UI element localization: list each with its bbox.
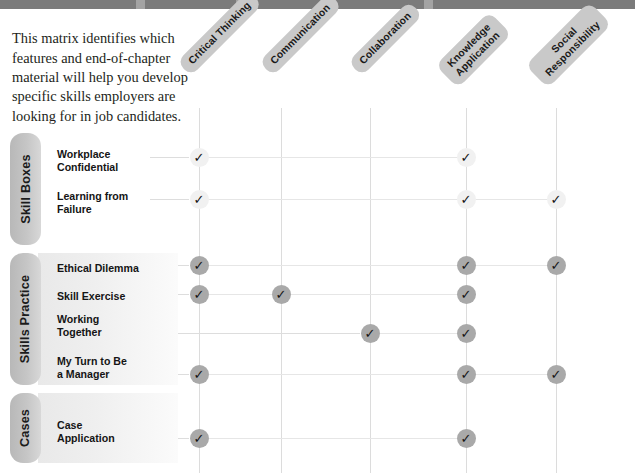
top-bar-text-fragment bbox=[136, 0, 145, 9]
category-tab-skill-boxes[interactable]: Skill Boxes bbox=[10, 133, 41, 245]
check-icon: ✓ bbox=[551, 193, 562, 206]
check-icon: ✓ bbox=[461, 259, 472, 272]
row-label-case-application: Case Application bbox=[57, 419, 115, 446]
check-mark-skill-exercise-critical-thinking[interactable]: ✓ bbox=[190, 285, 209, 304]
check-mark-skill-exercise-knowledge-application[interactable]: ✓ bbox=[457, 285, 476, 304]
check-icon: ✓ bbox=[461, 288, 472, 301]
row-rule-workplace-confidential bbox=[199, 157, 466, 158]
check-mark-skill-exercise-communication[interactable]: ✓ bbox=[272, 285, 291, 304]
check-icon: ✓ bbox=[194, 259, 205, 272]
row-label-working-together: Working Together bbox=[57, 313, 102, 340]
check-mark-case-application-knowledge-application[interactable]: ✓ bbox=[457, 429, 476, 448]
column-header-knowledge-application: Knowledge Application bbox=[435, 12, 511, 88]
check-icon: ✓ bbox=[194, 288, 205, 301]
row-rule-skill-exercise bbox=[199, 294, 466, 295]
leader-line-working-together bbox=[150, 333, 360, 334]
check-mark-ethical-dilemma-critical-thinking[interactable]: ✓ bbox=[190, 256, 209, 275]
check-mark-my-turn-to-be-a-manager-knowledge-application[interactable]: ✓ bbox=[457, 365, 476, 384]
row-label-learning-from-failure: Learning from Failure bbox=[57, 190, 128, 217]
column-header-label: Communication bbox=[268, 2, 332, 66]
column-rule-social-responsibility bbox=[556, 108, 557, 473]
row-label-skill-exercise: Skill Exercise bbox=[57, 290, 125, 303]
column-header-label: Collaboration bbox=[357, 10, 413, 66]
check-mark-workplace-confidential-critical-thinking[interactable]: ✓ bbox=[190, 148, 209, 167]
row-rule-learning-from-failure bbox=[199, 199, 556, 200]
check-mark-ethical-dilemma-knowledge-application[interactable]: ✓ bbox=[457, 256, 476, 275]
category-tab-label: Cases bbox=[19, 409, 33, 447]
row-rule-ethical-dilemma bbox=[199, 265, 556, 266]
category-tab-skills-practice[interactable]: Skills Practice bbox=[10, 253, 41, 385]
row-label-workplace-confidential: Workplace Confidential bbox=[57, 148, 118, 175]
check-icon: ✓ bbox=[551, 259, 562, 272]
leader-line-learning-from-failure bbox=[150, 199, 189, 200]
check-icon: ✓ bbox=[194, 432, 205, 445]
column-header-label: Social Responsibility bbox=[543, 19, 602, 78]
check-mark-learning-from-failure-critical-thinking[interactable]: ✓ bbox=[190, 190, 209, 209]
leader-line-workplace-confidential bbox=[150, 157, 189, 158]
row-label-my-turn-to-be-a-manager: My Turn to Be a Manager bbox=[57, 355, 127, 382]
check-icon: ✓ bbox=[365, 327, 376, 340]
check-mark-learning-from-failure-knowledge-application[interactable]: ✓ bbox=[457, 190, 476, 209]
skills-matrix-page: This matrix identifies which features an… bbox=[0, 0, 635, 473]
column-header-social-responsibility: Social Responsibility bbox=[525, 1, 612, 88]
check-icon: ✓ bbox=[461, 151, 472, 164]
check-icon: ✓ bbox=[461, 432, 472, 445]
top-bar-text-fragment-3 bbox=[424, 0, 433, 9]
check-icon: ✓ bbox=[194, 151, 205, 164]
column-rule-collaboration bbox=[370, 108, 371, 473]
check-mark-working-together-collaboration[interactable]: ✓ bbox=[361, 324, 380, 343]
category-tab-label: Skills Practice bbox=[19, 275, 33, 363]
check-icon: ✓ bbox=[551, 368, 562, 381]
check-icon: ✓ bbox=[194, 193, 205, 206]
row-rule-working-together bbox=[370, 333, 466, 334]
check-mark-my-turn-to-be-a-manager-critical-thinking[interactable]: ✓ bbox=[190, 365, 209, 384]
check-mark-case-application-critical-thinking[interactable]: ✓ bbox=[190, 429, 209, 448]
row-label-ethical-dilemma: Ethical Dilemma bbox=[57, 262, 139, 275]
check-mark-workplace-confidential-knowledge-application[interactable]: ✓ bbox=[457, 148, 476, 167]
check-icon: ✓ bbox=[194, 368, 205, 381]
column-header-communication: Communication bbox=[259, 0, 342, 76]
check-icon: ✓ bbox=[461, 327, 472, 340]
check-mark-my-turn-to-be-a-manager-social-responsibility[interactable]: ✓ bbox=[547, 365, 566, 384]
category-tab-label: Skill Boxes bbox=[19, 154, 33, 223]
check-icon: ✓ bbox=[461, 193, 472, 206]
category-tab-cases[interactable]: Cases bbox=[10, 393, 41, 463]
check-mark-working-together-knowledge-application[interactable]: ✓ bbox=[457, 324, 476, 343]
check-mark-ethical-dilemma-social-responsibility[interactable]: ✓ bbox=[547, 256, 566, 275]
column-header-label: Knowledge Application bbox=[445, 22, 502, 79]
row-rule-my-turn-to-be-a-manager bbox=[199, 374, 556, 375]
column-header-collaboration: Collaboration bbox=[348, 1, 423, 76]
check-icon: ✓ bbox=[276, 288, 287, 301]
row-rule-case-application bbox=[199, 438, 466, 439]
check-icon: ✓ bbox=[461, 368, 472, 381]
intro-paragraph: This matrix identifies which features an… bbox=[12, 29, 198, 125]
check-mark-learning-from-failure-social-responsibility[interactable]: ✓ bbox=[547, 190, 566, 209]
